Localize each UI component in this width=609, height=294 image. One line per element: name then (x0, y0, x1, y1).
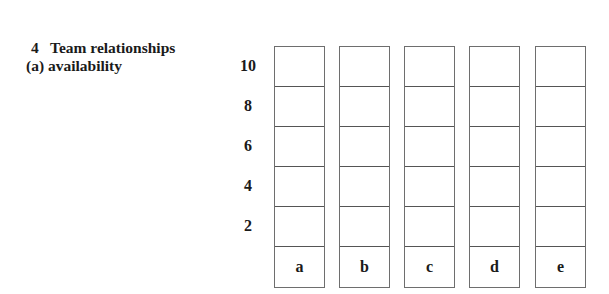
rating-column-b: b (339, 46, 390, 288)
rating-cell-10[interactable] (470, 47, 519, 87)
scale-label-6: 6 (233, 137, 263, 155)
rating-cell-6[interactable] (536, 127, 585, 167)
rating-cell-8[interactable] (275, 87, 324, 127)
rating-cell-10[interactable] (340, 47, 389, 87)
scale-label-10: 10 (233, 57, 263, 75)
rating-column-a: a (274, 46, 325, 288)
rating-cell-2[interactable] (275, 207, 324, 247)
scale-label-8: 8 (233, 97, 263, 115)
rating-cell-6[interactable] (275, 127, 324, 167)
section-heading: 4Team relationships (26, 39, 175, 57)
rating-cell-10[interactable] (536, 47, 585, 87)
rating-cell-8[interactable] (405, 87, 454, 127)
rating-cell-4[interactable] (405, 167, 454, 207)
rating-cell-10[interactable] (405, 47, 454, 87)
rating-column-e: e (535, 46, 586, 288)
column-label: e (536, 247, 585, 287)
scale-label-2: 2 (233, 217, 263, 235)
scale-label-4: 4 (233, 177, 263, 195)
rating-cell-2[interactable] (405, 207, 454, 247)
rating-cell-10[interactable] (275, 47, 324, 87)
rating-column-d: d (469, 46, 520, 288)
rating-cell-4[interactable] (536, 167, 585, 207)
section-subtitle: (a) availability (26, 57, 122, 75)
section-number: 4 (31, 39, 50, 57)
rating-cell-4[interactable] (275, 167, 324, 207)
rating-column-c: c (404, 46, 455, 288)
column-label: d (470, 247, 519, 287)
rating-cell-4[interactable] (340, 167, 389, 207)
rating-cell-8[interactable] (470, 87, 519, 127)
rating-cell-6[interactable] (340, 127, 389, 167)
rating-cell-2[interactable] (536, 207, 585, 247)
rating-cell-2[interactable] (470, 207, 519, 247)
rating-cell-8[interactable] (340, 87, 389, 127)
column-label: b (340, 247, 389, 287)
rating-cell-2[interactable] (340, 207, 389, 247)
section-title: Team relationships (50, 39, 175, 56)
rating-cell-8[interactable] (536, 87, 585, 127)
rating-cell-6[interactable] (470, 127, 519, 167)
rating-cell-6[interactable] (405, 127, 454, 167)
rating-cell-4[interactable] (470, 167, 519, 207)
column-label: a (275, 247, 324, 287)
column-label: c (405, 247, 454, 287)
